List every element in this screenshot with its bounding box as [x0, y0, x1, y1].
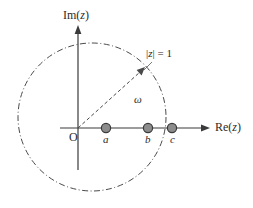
- origin-label: O: [69, 131, 78, 143]
- imaginary-axis-label-suffix: ): [85, 8, 89, 22]
- point-marker-c: [167, 123, 176, 132]
- complex-plane-figure: Im(z) Re(z) O |z| = 1 ω a b c: [0, 0, 253, 208]
- unit-circle-label: |z| = 1: [146, 48, 172, 59]
- unit-circle: [18, 43, 166, 191]
- point-label-b: b: [145, 134, 151, 145]
- real-axis-label: Re(z): [215, 121, 241, 133]
- omega-vector-line: [78, 72, 140, 128]
- imaginary-axis-arrowhead: [75, 25, 82, 34]
- real-axis-label-prefix: Re(: [215, 120, 232, 134]
- unit-circle-label-suffix: | = 1: [152, 47, 171, 59]
- point-label-c: c: [170, 134, 175, 145]
- imaginary-axis-label: Im(z): [63, 9, 89, 21]
- point-marker-a: [101, 123, 110, 132]
- point-marker-b: [143, 123, 152, 132]
- figure-canvas: [0, 0, 253, 208]
- imaginary-axis-label-prefix: Im(: [63, 8, 80, 22]
- real-axis-label-suffix: ): [237, 120, 241, 134]
- real-axis-arrowhead: [201, 125, 210, 132]
- point-label-a: a: [103, 134, 109, 145]
- omega-label: ω: [134, 94, 142, 105]
